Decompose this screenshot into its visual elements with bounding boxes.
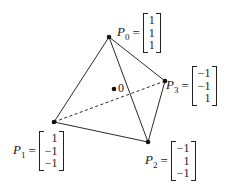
point-name: P0 [117, 24, 129, 42]
point-name: P3 [166, 77, 178, 95]
label-p3: P3 = −1 −1 1 [166, 66, 217, 106]
vertex-p1 [52, 120, 57, 125]
origin-point [112, 87, 117, 92]
point-name: P2 [145, 152, 157, 170]
vector-p0: 1 1 1 [143, 13, 161, 53]
label-p0: P0 = 1 1 1 [117, 13, 161, 53]
vertex-p0 [107, 35, 112, 40]
edge-p0-p1 [54, 37, 109, 122]
edge-p2-p3 [148, 81, 165, 142]
label-p2: P2 = −1 1 −1 [145, 141, 196, 181]
edge-p1-p3-hidden [54, 81, 165, 122]
label-p1: P1 = 1 −1 −1 [13, 131, 64, 171]
vector-p3: −1 −1 1 [192, 66, 217, 106]
point-name: P1 [13, 142, 25, 160]
vector-p2: −1 1 −1 [171, 141, 196, 181]
vector-p1: 1 −1 −1 [39, 131, 64, 171]
origin-label: 0 [118, 81, 124, 96]
edge-p1-p2 [54, 122, 148, 142]
